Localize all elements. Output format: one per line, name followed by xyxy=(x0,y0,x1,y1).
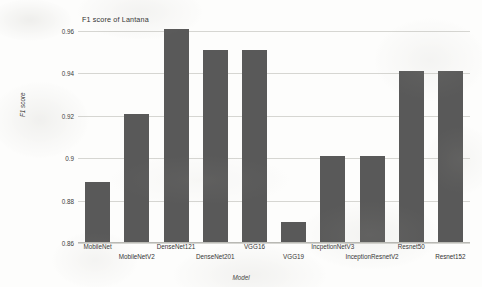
bar-chart: F1 score of Lantana 0.860.880.90.920.940… xyxy=(0,0,482,287)
plot-area xyxy=(78,31,470,243)
x-axis-tick-label: DenseNet201 xyxy=(196,253,235,260)
y-axis-tick-label: 0.88 xyxy=(62,197,74,204)
bar xyxy=(164,29,189,243)
y-axis-title: F1 score xyxy=(19,93,26,118)
y-axis-tick-label: 0.92 xyxy=(62,112,74,119)
x-axis-tick-label: Resnet152 xyxy=(435,253,465,260)
bar xyxy=(399,71,424,243)
bar xyxy=(242,50,267,243)
y-axis-tick-label: 0.94 xyxy=(62,70,74,77)
bar xyxy=(320,156,345,243)
x-axis-tick-label: InceptionResnetV2 xyxy=(345,253,398,260)
y-axis-tick-label: 0.9 xyxy=(65,155,74,162)
x-axis-tick-labels: MobileNetMobileNetV2DenseNet121DenseNet2… xyxy=(78,243,470,269)
x-axis-tick-label: DenseNet121 xyxy=(157,243,196,250)
y-axis: 0.860.880.90.920.940.96 xyxy=(48,31,74,243)
gridline xyxy=(78,31,470,32)
y-axis-tick-label: 0.86 xyxy=(62,240,74,247)
x-axis-tick-label: VGG19 xyxy=(283,253,304,260)
bar xyxy=(281,222,306,243)
bar xyxy=(85,182,110,243)
bar xyxy=(438,71,463,243)
bar xyxy=(124,114,149,243)
x-axis-title: Model xyxy=(232,274,249,281)
x-axis-tick-label: MobileNet xyxy=(83,243,111,250)
x-axis-tick-label: IncpetionNetV3 xyxy=(311,243,354,250)
bar xyxy=(360,156,385,243)
x-axis-tick-label: Resnet50 xyxy=(398,243,425,250)
chart-title: F1 score of Lantana xyxy=(82,15,149,24)
x-axis-tick-label: MobileNetV2 xyxy=(119,253,155,260)
x-axis-tick-label: VGG16 xyxy=(244,243,265,250)
bar xyxy=(203,50,228,243)
y-axis-tick-label: 0.96 xyxy=(62,28,74,35)
